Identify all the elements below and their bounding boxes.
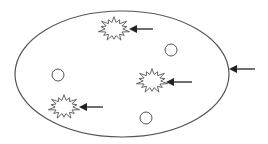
starburst-1 [98,17,129,40]
arrowhead-icon [166,78,174,86]
arrowhead-icon [129,25,137,33]
starbursts-layer [48,17,167,118]
small-circle-3 [140,112,152,124]
small-circle-1 [165,44,177,56]
arrowhead-icon [229,65,237,73]
starburst-3 [48,95,79,118]
arrowhead-icon [79,103,87,111]
starburst-2 [136,69,167,92]
small-circle-2 [52,69,64,81]
diagram-canvas [0,0,268,144]
